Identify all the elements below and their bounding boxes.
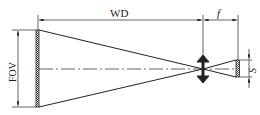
- image-rays: [203, 60, 236, 77]
- object-plane: [36, 30, 39, 107]
- wd-dimension: [38, 15, 203, 58]
- wd-label: WD: [110, 7, 128, 19]
- fov-label: FOV: [7, 61, 18, 82]
- s-label: S: [247, 68, 258, 73]
- optics-diagram: WD f FOV S: [0, 0, 260, 115]
- sensor-plane: [236, 60, 240, 77]
- f-label: f: [217, 7, 222, 19]
- object-rays: [39, 30, 203, 107]
- f-dimension: [204, 15, 238, 60]
